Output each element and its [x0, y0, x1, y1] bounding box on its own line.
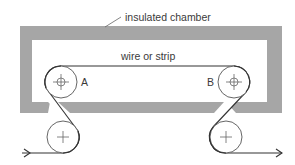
chamber-label: insulated chamber	[125, 11, 211, 23]
pulley-b-label: B	[207, 76, 214, 88]
chamber-label-leader	[105, 17, 121, 27]
wire-label: wire or strip	[120, 50, 175, 62]
pulley-a-label: A	[81, 76, 88, 88]
chamber-wire-diagram: insulated chamber wire or strip A	[0, 0, 295, 165]
pulley-lower-right	[210, 121, 242, 153]
